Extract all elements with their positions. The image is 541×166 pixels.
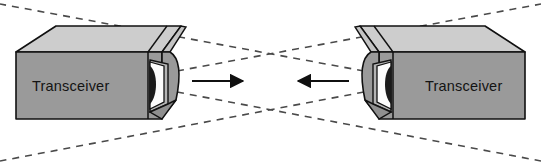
transceiver-link-diagram: Transceiver Transceiver — [0, 0, 541, 166]
transceiver-right — [355, 26, 525, 119]
diagram-canvas: Transceiver Transceiver — [0, 0, 541, 166]
transceiver-left: Transceiver — [16, 26, 186, 119]
transceiver-left-label: Transceiver — [32, 78, 109, 94]
transceiver-right-label: Transceiver — [425, 78, 502, 94]
